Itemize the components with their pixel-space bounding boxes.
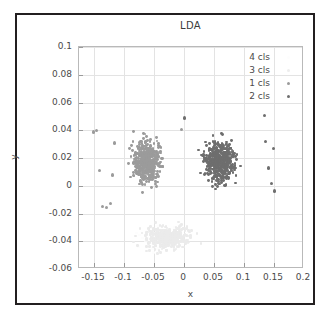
data-point	[139, 227, 142, 230]
data-point	[138, 234, 141, 237]
data-point	[156, 252, 159, 255]
data-point-outlier	[263, 114, 266, 117]
data-point	[220, 166, 223, 169]
y-tick-label: -0.06	[28, 263, 72, 273]
data-point	[218, 174, 221, 177]
data-point	[145, 250, 148, 253]
legend-label: 2 cls	[249, 90, 270, 103]
data-point	[159, 251, 162, 254]
x-tick-label: -0.1	[114, 272, 132, 282]
grid-line-horizontal	[79, 241, 302, 242]
data-point	[173, 249, 176, 252]
data-point	[227, 144, 230, 147]
data-point	[155, 234, 158, 237]
legend-item: 3 cls	[210, 64, 296, 77]
data-point	[213, 175, 216, 178]
x-tick-label: 0.05	[203, 272, 223, 282]
data-point	[225, 143, 228, 146]
x-tick-label: -0.05	[141, 272, 164, 282]
data-point	[225, 175, 228, 178]
data-point	[225, 166, 228, 169]
data-point	[168, 237, 171, 240]
data-point	[144, 175, 147, 178]
data-point	[157, 227, 160, 230]
data-point	[135, 232, 138, 235]
data-point	[154, 221, 157, 224]
data-point	[148, 249, 151, 252]
data-point	[159, 152, 162, 155]
data-point	[207, 161, 210, 164]
x-tick-label: 0.2	[296, 272, 310, 282]
data-point	[205, 154, 208, 157]
data-point	[141, 191, 144, 194]
data-point	[132, 140, 135, 143]
data-point	[221, 133, 224, 136]
chart-title: LDA	[78, 20, 303, 31]
data-point	[153, 142, 156, 145]
data-point	[214, 188, 217, 191]
data-point	[132, 241, 135, 244]
data-point	[234, 182, 237, 185]
data-point	[182, 241, 185, 244]
data-point	[161, 229, 164, 232]
grid-line-horizontal	[79, 214, 302, 215]
y-tick-mark	[79, 103, 83, 104]
data-point	[187, 229, 190, 232]
legend-marker	[287, 69, 290, 72]
y-tick-label: 0.06	[28, 97, 72, 107]
data-point	[153, 150, 156, 153]
data-point	[140, 181, 143, 184]
legend-marker	[287, 56, 290, 59]
y-tick-label: -0.04	[28, 235, 72, 245]
data-point	[136, 244, 139, 247]
data-point	[145, 231, 148, 234]
data-point	[145, 135, 148, 138]
data-point-outlier	[109, 202, 112, 205]
data-point	[159, 233, 162, 236]
figure-canvas: LDA 4 cls3 cls1 cls2 cls -0.15-0.1-0.050…	[0, 0, 327, 324]
data-point	[173, 239, 176, 242]
data-point	[149, 138, 152, 141]
data-point	[171, 235, 174, 238]
data-point	[196, 232, 199, 235]
legend-item: 1 cls	[210, 77, 296, 90]
x-tick-mark	[274, 263, 275, 267]
data-point	[231, 153, 234, 156]
data-point-outlier	[105, 206, 108, 209]
data-point	[233, 167, 236, 170]
data-point	[150, 238, 153, 241]
x-tick-mark	[154, 263, 155, 267]
data-point-outlier	[270, 182, 273, 185]
data-point-outlier	[98, 169, 101, 172]
x-tick-mark	[214, 263, 215, 267]
y-tick-mark	[79, 186, 83, 187]
data-point	[132, 130, 135, 133]
data-point	[179, 224, 182, 227]
data-point	[207, 179, 210, 182]
data-point	[145, 156, 148, 159]
x-tick-mark	[94, 263, 95, 267]
y-tick-label: 0.1	[28, 41, 72, 51]
data-point	[173, 231, 176, 234]
x-axis-label: x	[78, 289, 303, 299]
x-tick-mark	[184, 263, 185, 267]
data-point	[146, 171, 149, 174]
data-point	[221, 156, 224, 159]
data-point	[154, 243, 157, 246]
chart-legend: 4 cls3 cls1 cls2 cls	[210, 51, 296, 103]
data-point	[167, 245, 170, 248]
data-point	[127, 162, 130, 165]
data-point	[134, 235, 137, 238]
data-point	[176, 239, 179, 242]
data-point	[154, 176, 157, 179]
data-point-outlier	[183, 116, 186, 119]
data-point	[144, 234, 147, 237]
data-point	[145, 245, 148, 248]
data-point	[170, 245, 173, 248]
data-point	[215, 147, 218, 150]
grid-line-horizontal	[79, 47, 302, 48]
data-point	[234, 155, 237, 158]
data-point	[235, 158, 238, 161]
data-point	[155, 136, 158, 139]
data-point	[179, 231, 182, 234]
